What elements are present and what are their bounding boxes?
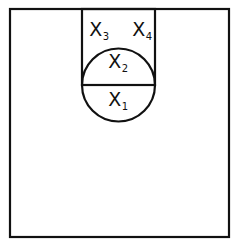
label-x1: X1 <box>108 90 127 112</box>
label-x2-base: X <box>108 50 121 72</box>
label-x3: X3 <box>89 20 108 42</box>
label-x2-subscript: 2 <box>122 63 128 74</box>
label-x3-subscript: 3 <box>103 31 109 42</box>
label-x1-base: X <box>108 88 121 110</box>
label-x4-subscript: 4 <box>146 31 152 42</box>
label-x3-base: X <box>89 18 102 40</box>
outer-square <box>10 9 229 237</box>
label-x4: X4 <box>132 20 151 42</box>
label-x1-subscript: 1 <box>122 101 128 112</box>
label-x4-base: X <box>132 18 145 40</box>
diagram-canvas: X3 X4 X2 X1 <box>0 0 236 244</box>
label-x2: X2 <box>108 52 127 74</box>
diagram-shapes <box>0 0 236 244</box>
